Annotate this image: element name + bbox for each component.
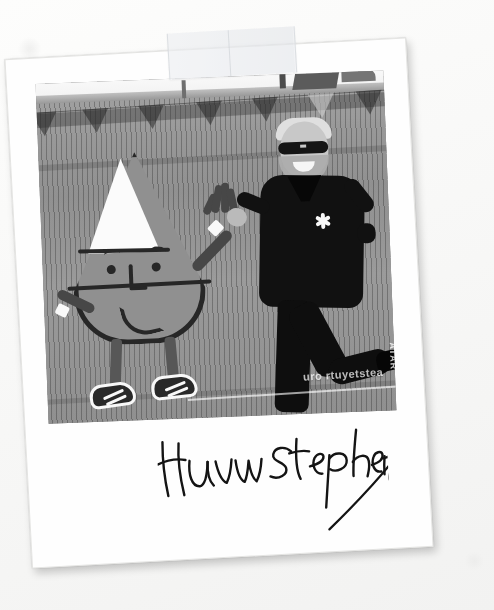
signature-area xyxy=(52,417,406,548)
flower-badge-icon xyxy=(315,213,332,230)
bunting-flag xyxy=(138,104,166,130)
bunting-flag xyxy=(36,111,58,137)
rooftop-right xyxy=(341,71,375,83)
hand-lowered xyxy=(357,223,376,244)
bunting-flag xyxy=(356,90,384,116)
background-side-text: ATAR xyxy=(388,343,397,371)
mascot-shoe xyxy=(150,372,198,401)
polaroid-print[interactable]: uro rtuyetstea ATAR xyxy=(5,38,434,569)
rooftop-left xyxy=(292,72,339,90)
photo-scene: uro rtuyetstea ATAR xyxy=(36,71,397,424)
signature-huw-stephens xyxy=(156,422,392,542)
tape-strip-sheen xyxy=(167,26,295,79)
mascot-eyebrow xyxy=(150,246,167,257)
bunting-flag xyxy=(308,93,336,119)
bunting-flag xyxy=(196,100,224,126)
sunglasses xyxy=(278,141,328,155)
bunting-flag xyxy=(82,108,110,134)
candy-corn-mascot xyxy=(54,149,233,405)
photo-image: uro rtuyetstea ATAR xyxy=(36,71,397,424)
mascot-arm-right xyxy=(190,228,234,273)
mascot-cone-top xyxy=(85,157,161,254)
